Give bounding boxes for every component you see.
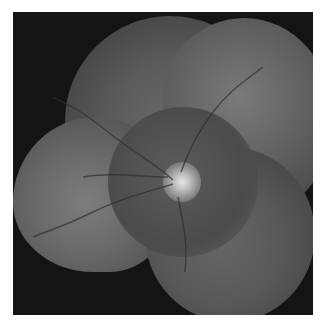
retinal-vessels [13,12,313,315]
fundus-montage [13,12,313,315]
